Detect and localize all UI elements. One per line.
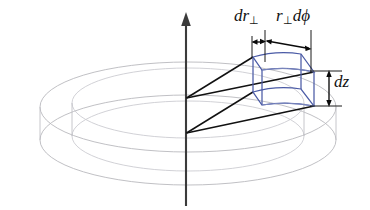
dimension-r-dphi xyxy=(266,30,312,72)
radial-ray-lower-outer xyxy=(187,106,315,133)
label-r-dphi-base-r: r xyxy=(276,6,283,25)
inner-bottom-circle xyxy=(72,101,304,171)
cylindrical-volume-element-diagram xyxy=(0,0,370,210)
cell-hidden-edge-mid xyxy=(262,68,314,72)
label-dz: dz xyxy=(334,73,349,90)
outer-top-circle xyxy=(40,62,336,152)
dim-arc-arrow-left xyxy=(266,39,273,44)
cell-top-face xyxy=(253,53,314,72)
label-dr-perp-base: dr xyxy=(234,6,249,25)
label-dr-perp: dr⊥ xyxy=(234,7,259,27)
z-axis-arrowhead xyxy=(181,12,191,26)
dim-arc-line xyxy=(267,41,309,49)
label-dr-perp-subscript: ⊥ xyxy=(249,15,259,26)
z-axis-group xyxy=(181,12,191,206)
disk-annulus xyxy=(40,62,336,185)
label-r-dphi-base-dphi: dϕ xyxy=(293,6,310,25)
label-r-dphi-subscript: ⊥ xyxy=(283,15,293,26)
cell-hidden-edge-mid-bottom xyxy=(262,103,314,106)
outer-bottom-circle xyxy=(40,95,336,185)
inner-top-circle xyxy=(72,68,304,138)
radial-ray-lower-inner xyxy=(187,92,254,133)
figure-canvas: dr⊥ r⊥dϕ dz xyxy=(0,0,370,210)
label-r-dphi: r⊥dϕ xyxy=(276,7,310,27)
